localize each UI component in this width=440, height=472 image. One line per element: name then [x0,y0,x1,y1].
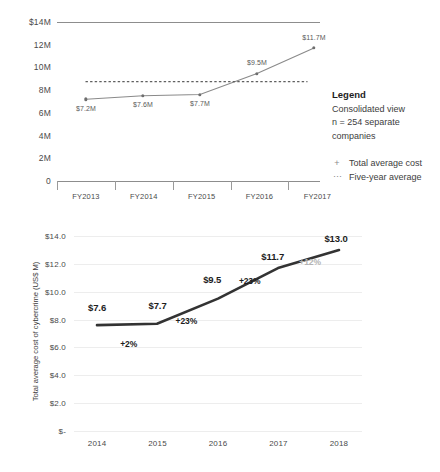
top-chart-xtick-fy2015: FY2015 [188,192,215,201]
top-chart-xtick-fy2014: FY2014 [130,192,157,201]
top-chart-x-axis-line [57,181,320,182]
bottom-chart-ytick-4: $4.0 [50,371,66,380]
bottom-chart-growth-2016-2017: +23% [239,276,261,286]
bottom-chart-xtick-2017: 2017 [269,439,288,448]
bottom-chart-growth-2014-2015: +2% [120,339,137,349]
bottom-chart-value-2016: $9.5 [203,274,221,285]
bottom-chart-growth-2015-2016: +23% [176,316,198,326]
bottom-chart-value-2015: $7.7 [148,300,166,311]
bottom-chart-ytick-12: $12.0 [45,259,66,268]
plus-marker-icon: + [332,159,342,168]
bottom-chart-value-2017: $11.7 [261,251,284,262]
bottom-chart-gridline-0 [74,431,362,432]
top-chart-tickmark-1 [115,181,116,190]
top-chart-tickmark-2 [173,181,174,190]
legend-title: Legend [332,88,436,102]
top-chart-tickmark-4 [288,181,289,190]
bottom-chart-ytick-14: $14.0 [45,232,66,241]
top-chart-ytick-0: 0 [46,176,51,186]
bottom-chart-growth-2017-2018: +12% [299,257,321,267]
bottom-chart-xtick-2015: 2015 [148,439,167,448]
dotted-line-icon: ⋯ [332,173,342,182]
top-chart-tickmark-3 [231,181,232,190]
legend-key-five-year-average: ⋯ Five-year average [332,171,436,185]
top-chart-label-fy2017: $11.7M [302,34,325,41]
top-chart-xtick-fy2017: FY2017 [304,192,331,201]
top-chart-total-average-cost-line [86,48,314,99]
top-chart-ytick-2m: 2M [39,153,51,163]
top-chart-xtick-fy2016: FY2016 [246,192,273,201]
top-chart-plot-area: $14M 12M 10M 8M 6M 4M 2M 0 FY2013 FY2014… [57,22,320,181]
legend-key-label-total-average-cost: Total average cost [349,157,422,171]
bottom-chart-value-2014: $7.6 [88,302,106,313]
top-chart-ytick-4m: 4M [39,131,51,141]
bottom-line-chart: Total average cost of cybercrime (US$ M)… [0,212,440,472]
top-chart-label-fy2014: $7.6M [133,101,153,108]
bottom-chart-y-axis-title: Total average cost of cybercrime (US$ M) [31,257,40,407]
legend-key-label-five-year-average: Five-year average [349,171,422,185]
bottom-chart-xtick-2016: 2016 [209,439,228,448]
legend-note-line-3: companies [332,130,436,144]
bottom-chart-ytick-8: $8.0 [50,315,66,324]
bottom-chart-xtick-2018: 2018 [330,439,349,448]
bottom-chart-ytick-2: $2.0 [50,399,66,408]
bottom-chart-ytick-0: $- [58,427,66,436]
top-chart-xtick-fy2013: FY2013 [72,192,99,201]
top-chart-ytick-8m: 8M [39,85,51,95]
bottom-chart-plot-area: $14.0 $12.0 $10.0 $8.0 $6.0 $4.0 $2.0 $-… [74,236,362,431]
legend-key-total-average-cost: + Total average cost [332,157,436,171]
legend-note-line-1: Consolidated view [332,103,436,117]
bottom-chart-value-2018: $13.0 [324,233,347,244]
top-chart-ytick-6m: 6M [39,108,51,118]
top-chart-label-fy2013: $7.2M [76,105,96,112]
top-chart-label-fy2015: $7.7M [190,100,210,107]
top-chart-series-svg [57,22,320,181]
top-chart-label-fy2016: $9.5M [247,59,267,66]
top-chart-ytick-14m: $14M [29,17,51,27]
legend-note-line-2: n = 254 separate [332,116,436,130]
top-chart-tickmark-0 [57,181,58,190]
bottom-chart-ytick-6: $6.0 [50,343,66,352]
bottom-chart-xtick-2014: 2014 [88,439,107,448]
legend: Legend Consolidated view n = 254 separat… [332,88,436,184]
top-chart-ytick-12m: 12M [34,40,51,50]
legend-keys: + Total average cost ⋯ Five-year average [332,157,436,184]
bottom-chart-ytick-10: $10.0 [45,287,66,296]
top-chart-ytick-10m: 10M [34,62,51,72]
